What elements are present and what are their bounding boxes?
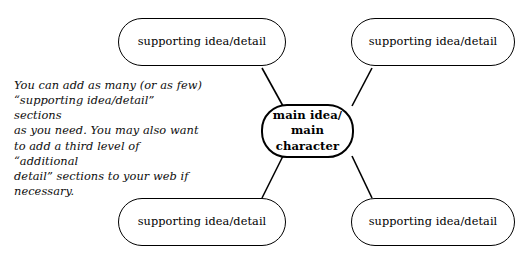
- node-main-idea[interactable]: main idea/ main character: [261, 104, 354, 158]
- node-supporting-idea-bottom-left[interactable]: supporting idea/detail: [118, 198, 286, 246]
- node-label: main idea/ main character: [263, 108, 352, 155]
- node-label: supporting idea/detail: [369, 35, 498, 49]
- node-label: supporting idea/detail: [138, 215, 267, 229]
- concept-web-diagram: supporting idea/detail supporting idea/d…: [0, 0, 523, 263]
- connector-center-to-top-left: [262, 68, 283, 106]
- node-supporting-idea-top-right[interactable]: supporting idea/detail: [351, 18, 515, 66]
- node-supporting-idea-top-left[interactable]: supporting idea/detail: [118, 18, 286, 66]
- connector-center-to-bottom-left: [262, 156, 283, 198]
- connector-center-to-bottom-right: [352, 156, 372, 198]
- node-supporting-idea-bottom-right[interactable]: supporting idea/detail: [351, 198, 515, 246]
- node-label: supporting idea/detail: [369, 215, 498, 229]
- connector-center-to-top-right: [352, 68, 372, 106]
- node-label: supporting idea/detail: [138, 35, 267, 49]
- explanatory-caption: You can add as many (or as few) “support…: [14, 78, 204, 199]
